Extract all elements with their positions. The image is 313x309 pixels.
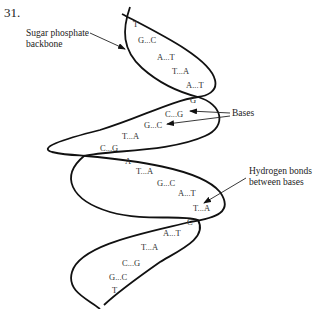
base-pair: A...T (186, 80, 205, 90)
base-label: T (112, 285, 118, 295)
base-pair: G...C (109, 272, 128, 282)
hydrogen-bonds-callout: Hydrogen bonds between bases (204, 166, 312, 203)
base-pair: C...G (165, 109, 183, 119)
base-pair: T...A (141, 242, 159, 252)
base-pair: T...A (172, 66, 190, 76)
hbonds-arrow-icon (204, 178, 246, 203)
base-pair: C...G (122, 258, 140, 268)
base-pair: A...T (163, 228, 182, 238)
base-pair: C...G (100, 143, 118, 153)
base-pair: T...A (122, 131, 140, 141)
hbonds-label-line2: between bases (249, 177, 304, 187)
backbone-callout: Sugar phosphate backbone (26, 28, 125, 49)
base-pairs: T G...C A...T T...A A...T G C...G G...C … (100, 19, 211, 295)
bases-arrow-icon-1 (190, 111, 230, 113)
question-number: 31. (4, 5, 20, 20)
base-label: T (133, 19, 139, 29)
base-pair: A...T (178, 188, 197, 198)
bases-label: Bases (232, 108, 254, 118)
backbone-label-line1: Sugar phosphate (26, 28, 89, 38)
base-pair: T...A (136, 166, 154, 176)
hbonds-label-line1: Hydrogen bonds (249, 166, 312, 176)
base-pair: G...C (157, 178, 176, 188)
base-pair: T...A (193, 203, 211, 213)
base-label: G (190, 95, 196, 105)
base-pair: G...C (138, 35, 157, 45)
dna-double-helix-diagram: 31. T G...C A...T T...A A...T G C...G G.… (0, 0, 313, 309)
base-pair: A...T (157, 52, 176, 62)
backbone-arrow-icon (90, 33, 125, 49)
base-label: C (187, 217, 193, 227)
base-pair: G...C (144, 120, 163, 130)
backbone-label-line2: backbone (26, 39, 62, 49)
base-label: A (125, 156, 132, 166)
